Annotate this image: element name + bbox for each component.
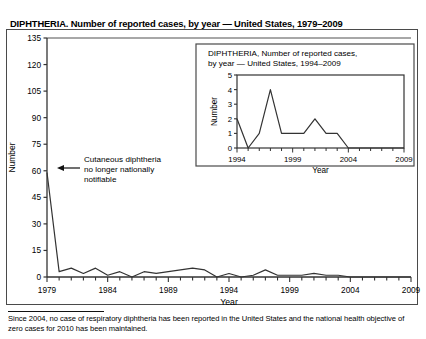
main-y-tick-label: 135 — [27, 33, 41, 43]
inset-y-tick-label: 3 — [228, 100, 232, 109]
inset-y-tick-label: 0 — [228, 144, 233, 153]
annotation-arrow-head — [57, 165, 64, 171]
inset-x-tick-label: 2009 — [395, 155, 412, 164]
footnote-divider — [8, 311, 104, 312]
main-y-tick-label: 30 — [32, 219, 42, 229]
chart-canvas: 0153045607590105120135Number197919841989… — [0, 0, 426, 339]
inset-y-tick-label: 2 — [228, 115, 232, 124]
inset-title-line-2: by year — United States, 1994–2009 — [208, 59, 341, 68]
main-y-tick-label: 120 — [27, 60, 41, 70]
inset-plot-group: DIPHTHERIA, Number of reported cases,by … — [196, 44, 414, 175]
annotation-group: Cutaneous diphtheriano longer nationally… — [57, 155, 161, 184]
main-x-tick-label: 1994 — [220, 285, 239, 295]
inset-y-axis-label: Number — [210, 97, 219, 126]
inset-x-axis-label: Year — [312, 166, 329, 175]
main-x-tick-label: 2009 — [402, 285, 421, 295]
main-y-tick-label: 75 — [32, 139, 42, 149]
main-x-tick-label: 1979 — [38, 285, 57, 295]
annotation-line-2: no longer nationally — [84, 165, 155, 174]
inset-y-tick-label: 5 — [228, 71, 233, 80]
inset-title-line-1: DIPHTHERIA, Number of reported cases, — [208, 49, 357, 58]
main-y-tick-label: 45 — [32, 192, 42, 202]
annotation-line-1: Cutaneous diphtheria — [84, 155, 161, 164]
inset-y-tick-label: 4 — [228, 86, 233, 95]
diphtheria-figure: DIPHTHERIA. Number of reported cases, by… — [0, 0, 426, 339]
inset-x-tick-label: 1999 — [284, 155, 301, 164]
footnote-text: Since 2004, no case of respiratory dipht… — [8, 314, 418, 335]
annotation-line-3: notifiable — [84, 175, 117, 184]
main-y-axis-label: Number — [7, 142, 17, 172]
main-x-tick-label: 1984 — [98, 285, 117, 295]
main-x-axis-label: Year — [220, 297, 238, 307]
inset-x-tick-label: 1994 — [228, 155, 246, 164]
inset-y-tick-label: 1 — [228, 129, 232, 138]
main-y-tick-label: 60 — [32, 166, 42, 176]
main-y-tick-label: 15 — [32, 245, 42, 255]
inset-x-tick-label: 2004 — [340, 155, 358, 164]
main-y-tick-label: 90 — [32, 113, 42, 123]
main-x-tick-label: 1989 — [159, 285, 178, 295]
main-x-tick-label: 2004 — [341, 285, 360, 295]
main-y-tick-label: 0 — [36, 272, 41, 282]
main-data-line — [47, 173, 411, 277]
main-x-tick-label: 1999 — [280, 285, 299, 295]
main-y-tick-label: 105 — [27, 86, 41, 96]
